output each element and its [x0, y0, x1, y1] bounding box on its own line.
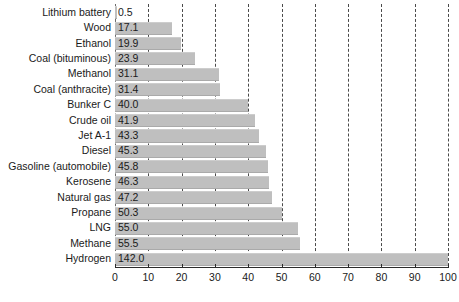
bar-row: Diesel45.3: [115, 145, 448, 156]
x-tick-70: [348, 264, 349, 268]
value-label: 142.0: [118, 253, 144, 264]
value-label: 45.8: [118, 161, 138, 172]
chart-figure: Lithium battery0.5Wood17.1Ethanol19.9Coa…: [0, 0, 459, 302]
category-label: Natural gas: [57, 191, 111, 202]
value-label: 17.1: [118, 22, 138, 33]
value-label: 47.2: [118, 191, 138, 202]
x-tick-60: [315, 264, 316, 268]
value-label: 19.9: [118, 37, 138, 48]
category-label: LNG: [89, 222, 111, 233]
value-label: 45.3: [118, 145, 138, 156]
value-label: 43.3: [118, 130, 138, 141]
bar: [115, 207, 282, 220]
x-tick-10: [148, 264, 149, 268]
x-tick-0: [115, 264, 116, 268]
value-label: 50.3: [118, 207, 138, 218]
category-label: Methanol: [68, 68, 111, 79]
bar-row: Gasoline (automobile)45.8: [115, 160, 448, 171]
x-tick-label-50: 50: [276, 272, 288, 283]
bar: [115, 237, 300, 250]
bar-row: LNG55.0: [115, 222, 448, 233]
bar: [115, 191, 272, 204]
category-label: Crude oil: [69, 114, 111, 125]
bar-row: Hydrogen142.0: [115, 253, 448, 264]
category-label: Propane: [71, 207, 111, 218]
category-label: Coal (bituminous): [29, 53, 111, 64]
x-tick-label-20: 20: [176, 272, 188, 283]
category-label: Hydrogen: [65, 253, 111, 264]
value-label: 0.5: [118, 6, 133, 17]
x-tick-30: [215, 264, 216, 268]
bar-row: Wood17.1: [115, 22, 448, 33]
category-label: Jet A-1: [78, 130, 111, 141]
bar-row: Jet A-143.3: [115, 129, 448, 140]
bar-row: Natural gas47.2: [115, 191, 448, 202]
x-tick-label-10: 10: [142, 272, 154, 283]
value-label: 46.3: [118, 176, 138, 187]
bar-row: Kerosene46.3: [115, 176, 448, 187]
bar-row: Bunker C40.0: [115, 99, 448, 110]
plot-area: Lithium battery0.5Wood17.1Ethanol19.9Coa…: [115, 4, 448, 266]
bar-row: Coal (bituminous)23.9: [115, 52, 448, 63]
value-label: 23.9: [118, 53, 138, 64]
x-tick-80: [381, 264, 382, 268]
bar-row: Methane55.5: [115, 237, 448, 248]
category-label: Lithium battery: [42, 6, 111, 17]
x-tick-40: [248, 264, 249, 268]
x-axis-line: [115, 267, 448, 268]
x-tick-50: [282, 264, 283, 268]
category-label: Diesel: [82, 145, 111, 156]
bar-row: Crude oil41.9: [115, 114, 448, 125]
bar-row: Lithium battery0.5: [115, 6, 448, 17]
x-tick-label-30: 30: [209, 272, 221, 283]
x-tick-90: [415, 264, 416, 268]
x-tick-label-90: 90: [409, 272, 421, 283]
value-label: 41.9: [118, 114, 138, 125]
x-tick-label-60: 60: [309, 272, 321, 283]
x-tick-label-40: 40: [242, 272, 254, 283]
category-label: Methane: [70, 238, 111, 249]
category-label: Ethanol: [75, 37, 111, 48]
bar-row: Coal (anthracite)31.4: [115, 83, 448, 94]
value-label: 55.0: [118, 222, 138, 233]
category-label: Coal (anthracite): [33, 84, 111, 95]
bar-row: Propane50.3: [115, 207, 448, 218]
value-label: 55.5: [118, 238, 138, 249]
bar-row: Ethanol19.9: [115, 37, 448, 48]
x-tick-100: [448, 264, 449, 268]
x-tick-label-100: 100: [439, 272, 457, 283]
x-tick-20: [182, 264, 183, 268]
category-label: Bunker C: [67, 99, 111, 110]
x-tick-label-0: 0: [112, 272, 118, 283]
x-tick-label-70: 70: [342, 272, 354, 283]
gridline-100: [448, 4, 449, 266]
bar: [115, 6, 117, 19]
category-label: Wood: [84, 22, 111, 33]
category-label: Gasoline (automobile): [8, 161, 111, 172]
value-label: 31.4: [118, 84, 138, 95]
bar-row: Methanol31.1: [115, 68, 448, 79]
bar: [115, 222, 298, 235]
x-tick-label-80: 80: [376, 272, 388, 283]
value-label: 40.0: [118, 99, 138, 110]
category-label: Kerosene: [66, 176, 111, 187]
value-label: 31.1: [118, 68, 138, 79]
